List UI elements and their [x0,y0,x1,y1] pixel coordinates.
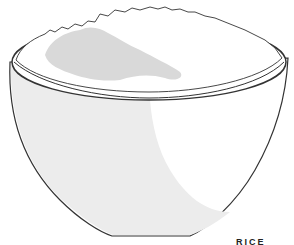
bowl-icon [0,0,294,245]
caption-label: RICE [236,238,266,245]
rice-bowl-illustration [0,0,294,245]
